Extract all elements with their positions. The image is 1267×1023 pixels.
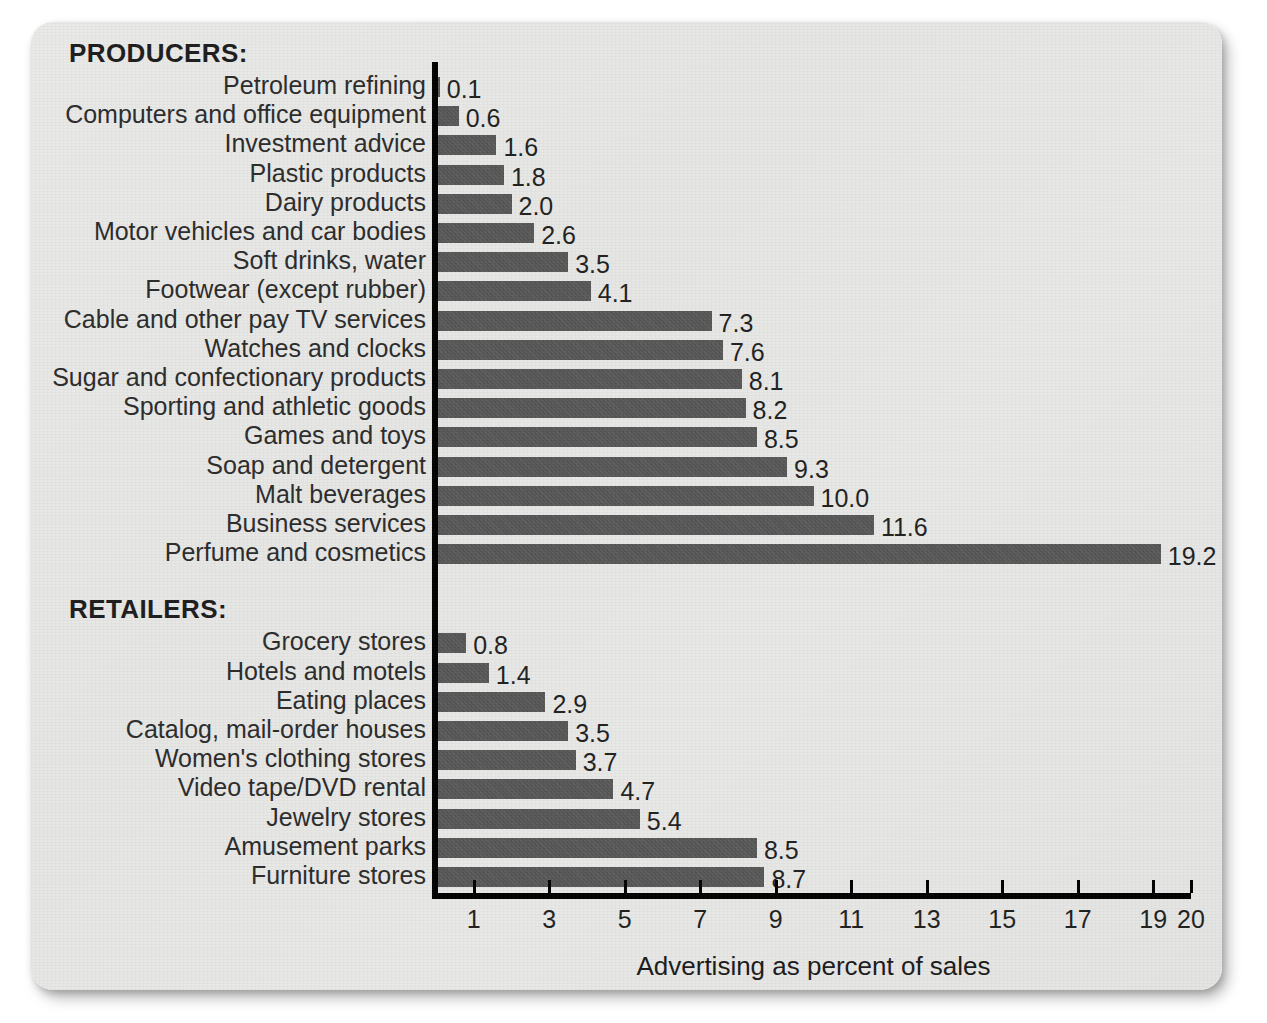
x-axis-tick: [850, 880, 853, 893]
category-label: Dairy products: [265, 189, 436, 218]
bar-value-label: 8.5: [757, 836, 799, 865]
bar-wrapper: 0.8: [436, 633, 466, 653]
bar[interactable]: [436, 427, 757, 447]
chart-row: Perfume and cosmetics19.2: [31, 539, 1222, 568]
bar-wrapper: 11.6: [436, 515, 874, 535]
x-axis-tick-label: 11: [838, 905, 864, 934]
bar[interactable]: [436, 281, 591, 301]
bar-wrapper: 4.7: [436, 779, 613, 799]
bar[interactable]: [436, 106, 459, 126]
chart-row: Dairy products2.0: [31, 189, 1222, 218]
chart-row: Plastic products1.8: [31, 160, 1222, 189]
bar-value-label: 1.4: [489, 661, 531, 690]
bar-value-label: 7.6: [723, 338, 765, 367]
category-label: Catalog, mail-order houses: [126, 716, 436, 745]
category-label: Amusement parks: [225, 833, 436, 862]
category-label: Petroleum refining: [223, 72, 436, 101]
bar-wrapper: 2.0: [436, 194, 512, 214]
bar-wrapper: 8.5: [436, 838, 757, 858]
category-label: Soap and detergent: [206, 452, 436, 481]
chart-row: Investment advice1.6: [31, 130, 1222, 159]
bar-wrapper: 3.7: [436, 750, 576, 770]
bar[interactable]: [436, 398, 746, 418]
bar[interactable]: [436, 252, 568, 272]
bar-wrapper: 2.9: [436, 692, 545, 712]
bar-value-label: 1.6: [496, 133, 538, 162]
bar[interactable]: [436, 135, 496, 155]
x-axis-tick-label: 13: [913, 905, 941, 934]
bar[interactable]: [436, 721, 568, 741]
bar-value-label: 5.4: [640, 807, 682, 836]
chart-row: Grocery stores0.8: [31, 628, 1222, 657]
x-axis-tick: [1077, 880, 1080, 893]
bar-wrapper: 3.5: [436, 252, 568, 272]
chart-row: Cable and other pay TV services7.3: [31, 306, 1222, 335]
bar-wrapper: 10.0: [436, 486, 814, 506]
chart-row: Petroleum refining0.1: [31, 72, 1222, 101]
bar[interactable]: [436, 165, 504, 185]
bar-value-label: 0.1: [440, 75, 482, 104]
category-label: Hotels and motels: [226, 658, 436, 687]
category-label: Footwear (except rubber): [145, 276, 436, 305]
category-label: Cable and other pay TV services: [64, 306, 436, 335]
bar[interactable]: [436, 457, 787, 477]
bar[interactable]: [436, 544, 1161, 564]
bar-value-label: 0.8: [466, 631, 508, 660]
category-label: Women's clothing stores: [155, 745, 436, 774]
bar[interactable]: [436, 369, 742, 389]
bar[interactable]: [436, 692, 545, 712]
bar[interactable]: [436, 340, 723, 360]
chart-row: Amusement parks8.5: [31, 833, 1222, 862]
bar[interactable]: [436, 515, 874, 535]
bar[interactable]: [436, 750, 576, 770]
x-axis-tick-label: 5: [618, 905, 632, 934]
category-label: Jewelry stores: [266, 804, 436, 833]
category-label: Plastic products: [250, 160, 436, 189]
chart-row: Video tape/DVD rental4.7: [31, 774, 1222, 803]
bar-wrapper: 1.6: [436, 135, 496, 155]
category-label: Furniture stores: [251, 862, 436, 891]
bar[interactable]: [436, 779, 613, 799]
x-axis-tick-label: 1: [467, 905, 481, 934]
x-axis-title: Advertising as percent of sales: [636, 951, 990, 982]
bar-wrapper: 8.2: [436, 398, 746, 418]
bar[interactable]: [436, 663, 489, 683]
bar[interactable]: [436, 867, 764, 887]
bar[interactable]: [436, 486, 814, 506]
bar-wrapper: 8.7: [436, 867, 764, 887]
bar[interactable]: [436, 838, 757, 858]
chart-row: Eating places2.9: [31, 687, 1222, 716]
bar[interactable]: [436, 633, 466, 653]
bar-wrapper: 2.6: [436, 223, 534, 243]
bar-wrapper: 19.2: [436, 544, 1161, 564]
y-axis-line: [432, 62, 438, 893]
bar-value-label: 10.0: [814, 484, 870, 513]
bar[interactable]: [436, 194, 512, 214]
bar-value-label: 8.1: [742, 367, 784, 396]
category-label: Eating places: [276, 687, 436, 716]
category-label: Grocery stores: [262, 628, 436, 657]
x-axis-tick: [624, 880, 627, 893]
bar-value-label: 8.7: [764, 865, 806, 894]
bar[interactable]: [436, 311, 712, 331]
chart-row: Sugar and confectionary products8.1: [31, 364, 1222, 393]
category-label: Investment advice: [225, 130, 437, 159]
bar-wrapper: 5.4: [436, 809, 640, 829]
chart-row: Hotels and motels1.4: [31, 658, 1222, 687]
bar-value-label: 3.5: [568, 250, 610, 279]
x-axis-tick: [1001, 880, 1004, 893]
chart-row: Catalog, mail-order houses3.5: [31, 716, 1222, 745]
chart-row: Soap and detergent9.3: [31, 452, 1222, 481]
bar-wrapper: 1.4: [436, 663, 489, 683]
bar-value-label: 1.8: [504, 163, 546, 192]
category-label: Perfume and cosmetics: [165, 539, 436, 568]
bar[interactable]: [436, 223, 534, 243]
category-label: Watches and clocks: [205, 335, 436, 364]
chart-row: Games and toys8.5: [31, 422, 1222, 451]
bar[interactable]: [436, 809, 640, 829]
x-axis-tick-label: 15: [988, 905, 1016, 934]
x-axis-tick-label: 7: [693, 905, 707, 934]
x-axis-tick-label: 9: [769, 905, 783, 934]
chart-row: Malt beverages10.0: [31, 481, 1222, 510]
chart-row: Soft drinks, water3.5: [31, 247, 1222, 276]
